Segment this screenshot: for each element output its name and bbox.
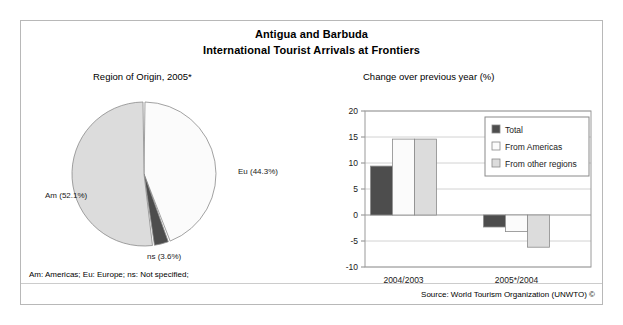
bar-chart-title: Change over previous year (%): [363, 71, 494, 82]
pie-slice-label-ns: ns (3.6%): [147, 252, 181, 261]
legend-label-total: Total: [505, 125, 523, 135]
pie-chart-title: Region of Origin, 2005*: [93, 71, 192, 82]
figure-title-line1: Antigua and Barbuda: [21, 28, 602, 40]
y-tick-label-15: 15: [349, 132, 359, 142]
y-tick-label-10: 10: [349, 158, 359, 168]
bar-chart-y-axis-ticks: 20151050-5-10: [346, 106, 359, 272]
bar-20052004-total: [484, 215, 506, 227]
pie-slices: [72, 102, 216, 246]
pie-chart-svg: [41, 89, 331, 264]
pie-chart: Eu (44.3%) Am (52.1%) ns (3.6%): [41, 89, 331, 264]
bar-chart: 20151050-5-10 2004/20032005*/2004 TotalF…: [333, 87, 599, 287]
y-tick-label--10: -10: [346, 262, 359, 272]
bar-20052004-from-other-regions: [528, 215, 550, 247]
legend-label-from-other-regions: From other regions: [505, 159, 577, 169]
legend-label-from-americas: From Americas: [505, 142, 562, 152]
pie-slice-label-am: Am (52.1%): [45, 191, 87, 200]
legend-swatch-total: [492, 125, 500, 133]
figure-title-line2: International Tourist Arrivals at Fronti…: [21, 44, 602, 56]
bar-chart-svg: 20151050-5-10 2004/20032005*/2004 TotalF…: [333, 87, 599, 287]
bar-20042003-from-americas: [393, 139, 415, 215]
bar-20052004-from-americas: [506, 215, 528, 232]
footer-divider: [21, 283, 602, 284]
pie-slice-am: [72, 102, 152, 246]
y-tick-label-0: 0: [353, 210, 358, 220]
y-tick-label--5: -5: [350, 236, 358, 246]
pie-slice-label-eu: Eu (44.3%): [238, 167, 278, 176]
figure-frame: Antigua and Barbuda International Touris…: [20, 20, 603, 305]
abbreviation-footnote: Am: Americas; Eu: Europe; ns: Not specif…: [29, 270, 189, 279]
bar-20042003-from-other-regions: [415, 139, 437, 215]
y-tick-label-5: 5: [353, 184, 358, 194]
legend-swatch-from-other-regions: [492, 159, 500, 167]
legend-swatch-from-americas: [492, 142, 500, 150]
bar-chart-legend: TotalFrom AmericasFrom other regions: [485, 117, 589, 176]
source-note: Source: World Tourism Organization (UNWT…: [421, 290, 595, 299]
bar-20042003-total: [371, 166, 393, 215]
y-tick-label-20: 20: [349, 106, 359, 116]
